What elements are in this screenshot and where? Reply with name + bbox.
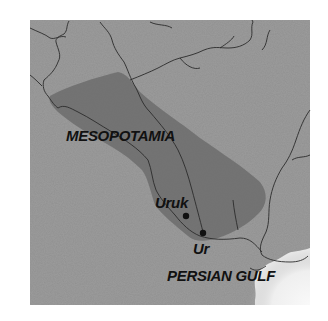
city-label-uruk: Uruk	[155, 194, 188, 211]
uruk-city-dot	[183, 213, 189, 219]
city-label-ur: Ur	[193, 240, 209, 257]
ur-city-dot	[200, 230, 206, 236]
map-canvas	[0, 0, 328, 321]
water-label-persian-gulf: PERSIAN GULF	[167, 267, 275, 284]
region-label-mesopotamia: MESOPOTAMIA	[66, 127, 175, 144]
